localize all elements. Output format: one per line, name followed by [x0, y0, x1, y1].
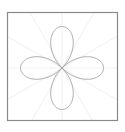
polar-chart — [0, 0, 125, 132]
radial-gridline — [0, 29, 62, 68]
radial-gridline — [0, 68, 62, 107]
polar-plot-canvas — [0, 0, 125, 132]
radial-gridlines — [0, 0, 125, 132]
radial-gridline — [62, 29, 125, 68]
radial-gridline — [62, 68, 125, 107]
